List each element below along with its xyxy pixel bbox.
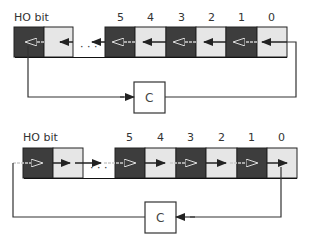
bit-label-1: 1 <box>238 11 245 24</box>
bit-label-4: 4 <box>157 131 164 144</box>
bottom-diagram-rotate-right: HO bit 5 4 3 2 1 0 · · · <box>13 131 297 233</box>
carry-label: C <box>156 211 164 225</box>
bit-label-3: 3 <box>178 11 185 24</box>
bit-label-5: 5 <box>117 11 124 24</box>
rotate-through-carry-diagram: HO bit 5 4 3 2 1 0 · · · <box>0 0 310 243</box>
carry-label: C <box>145 91 153 105</box>
bit-label-3: 3 <box>187 131 194 144</box>
ho-bit-label: HO bit <box>14 11 49 24</box>
ho-bit-label: HO bit <box>23 131 58 144</box>
top-diagram-rotate-left: HO bit 5 4 3 2 1 0 · · · <box>14 11 296 113</box>
bit-label-5: 5 <box>126 131 133 144</box>
bit-label-2: 2 <box>218 131 225 144</box>
bit-label-0: 0 <box>268 11 275 24</box>
bit-label-0: 0 <box>278 131 285 144</box>
bit-label-2: 2 <box>208 11 215 24</box>
bit-label-1: 1 <box>248 131 255 144</box>
bit-label-4: 4 <box>147 11 154 24</box>
